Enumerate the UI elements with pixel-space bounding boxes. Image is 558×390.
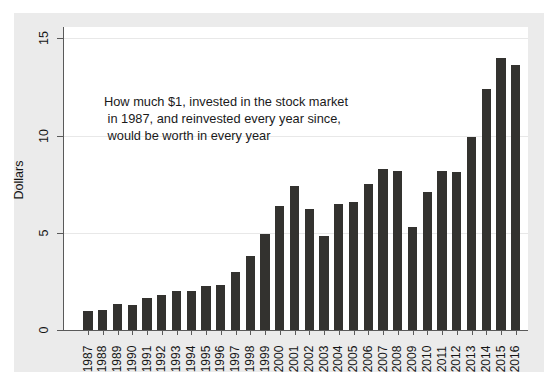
x-tick-mark bbox=[309, 331, 310, 335]
x-tick-label-text: 2004 bbox=[332, 346, 346, 373]
x-tick-mark bbox=[442, 331, 443, 335]
bar bbox=[305, 209, 314, 330]
x-tick-label: 1988 bbox=[96, 338, 110, 378]
bar bbox=[83, 311, 92, 330]
bar bbox=[172, 291, 181, 330]
x-tick-label-text: 1991 bbox=[140, 346, 154, 373]
x-tick-mark bbox=[501, 331, 502, 335]
x-tick-label-text: 2014 bbox=[479, 346, 493, 373]
y-tick-label-text: 0 bbox=[37, 327, 51, 334]
x-tick-label-text: 1998 bbox=[243, 346, 257, 373]
bar bbox=[452, 172, 461, 330]
x-tick-label: 2003 bbox=[317, 338, 331, 378]
bar bbox=[128, 305, 137, 330]
x-tick-label-text: 2015 bbox=[494, 346, 508, 373]
x-tick-label: 1993 bbox=[170, 338, 184, 378]
x-tick-mark bbox=[457, 331, 458, 335]
x-tick-label-text: 2009 bbox=[406, 346, 420, 373]
x-tick-mark bbox=[118, 331, 119, 335]
y-tick-mark bbox=[57, 330, 63, 331]
bar bbox=[364, 184, 373, 330]
y-tick-label: 0 bbox=[34, 323, 54, 337]
x-tick-label-text: 1992 bbox=[155, 346, 169, 373]
x-tick-label: 2014 bbox=[479, 338, 493, 378]
bar bbox=[482, 89, 491, 330]
x-tick-mark bbox=[427, 331, 428, 335]
x-tick-mark bbox=[191, 331, 192, 335]
x-tick-label: 2004 bbox=[332, 338, 346, 378]
x-tick-label: 2016 bbox=[509, 338, 523, 378]
bar bbox=[437, 171, 446, 330]
x-tick-label: 2013 bbox=[465, 338, 479, 378]
x-tick-label-text: 2000 bbox=[273, 346, 287, 373]
x-tick-mark bbox=[354, 331, 355, 335]
x-tick-mark bbox=[339, 331, 340, 335]
bar bbox=[246, 256, 255, 330]
x-tick-mark bbox=[280, 331, 281, 335]
x-tick-mark bbox=[295, 331, 296, 335]
bar bbox=[113, 304, 122, 330]
x-tick-label: 2008 bbox=[391, 338, 405, 378]
x-tick-mark bbox=[413, 331, 414, 335]
x-tick-label: 1994 bbox=[184, 338, 198, 378]
x-tick-mark bbox=[398, 331, 399, 335]
x-tick-label: 2011 bbox=[435, 338, 449, 378]
x-tick-label: 2005 bbox=[347, 338, 361, 378]
bar bbox=[393, 171, 402, 330]
y-axis-title-text: Dollars bbox=[12, 161, 26, 200]
x-tick-mark bbox=[368, 331, 369, 335]
x-tick-label: 2010 bbox=[420, 338, 434, 378]
x-tick-mark bbox=[221, 331, 222, 335]
x-tick-label-text: 1999 bbox=[258, 346, 272, 373]
x-tick-label-text: 2005 bbox=[347, 346, 361, 373]
bar bbox=[334, 204, 343, 330]
x-tick-label: 2001 bbox=[288, 338, 302, 378]
x-tick-label-text: 1993 bbox=[170, 346, 184, 373]
y-tick-label-text: 15 bbox=[37, 31, 51, 45]
x-tick-mark bbox=[383, 331, 384, 335]
chart-figure: 051015 Dollars 1987198819891990199119921… bbox=[0, 0, 558, 390]
x-tick-mark bbox=[324, 331, 325, 335]
bar bbox=[98, 310, 107, 330]
y-tick-mark bbox=[57, 136, 63, 137]
bar bbox=[260, 234, 269, 330]
y-tick-label-text: 10 bbox=[37, 129, 51, 143]
x-tick-label-text: 1997 bbox=[229, 346, 243, 373]
x-tick-label-text: 2006 bbox=[361, 346, 375, 373]
x-tick-label: 2002 bbox=[302, 338, 316, 378]
x-tick-label-text: 1995 bbox=[199, 346, 213, 373]
bar bbox=[511, 65, 520, 330]
x-tick-mark bbox=[516, 331, 517, 335]
x-tick-label-text: 1990 bbox=[125, 346, 139, 373]
y-tick-label-text: 5 bbox=[37, 229, 51, 236]
y-tick-mark bbox=[57, 233, 63, 234]
x-tick-label-text: 1989 bbox=[111, 346, 125, 373]
x-tick-mark bbox=[486, 331, 487, 335]
bar bbox=[231, 272, 240, 330]
x-tick-label: 1991 bbox=[140, 338, 154, 378]
x-tick-label: 1999 bbox=[258, 338, 272, 378]
x-tick-label-text: 2011 bbox=[435, 346, 449, 372]
x-tick-label: 1990 bbox=[125, 338, 139, 378]
bar bbox=[349, 202, 358, 330]
x-tick-label: 2009 bbox=[406, 338, 420, 378]
x-tick-label: 1992 bbox=[155, 338, 169, 378]
x-tick-mark bbox=[147, 331, 148, 335]
bar bbox=[216, 285, 225, 330]
x-tick-label-text: 2010 bbox=[420, 346, 434, 373]
x-tick-label-text: 2007 bbox=[376, 346, 390, 373]
x-tick-label-text: 1994 bbox=[184, 346, 198, 373]
x-tick-mark bbox=[236, 331, 237, 335]
bar bbox=[187, 291, 196, 330]
x-tick-label-text: 2003 bbox=[317, 346, 331, 373]
bar bbox=[378, 169, 387, 330]
x-tick-mark bbox=[103, 331, 104, 335]
x-tick-label: 2012 bbox=[450, 338, 464, 378]
x-tick-mark bbox=[88, 331, 89, 335]
y-tick-mark bbox=[57, 38, 63, 39]
bar bbox=[496, 58, 505, 330]
y-tick-label: 5 bbox=[34, 226, 54, 240]
bar bbox=[467, 137, 476, 330]
x-tick-label: 2000 bbox=[273, 338, 287, 378]
x-tick-mark bbox=[177, 331, 178, 335]
